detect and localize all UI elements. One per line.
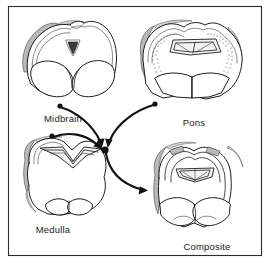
arrow-pons-head: [105, 139, 112, 148]
figure-canvas: Midbrain: [0, 0, 271, 265]
medulla-pyramid-left: [46, 199, 70, 215]
composite-label: Composite: [183, 241, 230, 252]
medulla-label: Medulla: [36, 224, 71, 235]
arrow-hub-to-composite: [106, 154, 140, 190]
medulla-pyramid-right: [68, 199, 92, 215]
medulla-section: Medulla: [24, 136, 106, 235]
midbrain-section: Midbrain: [23, 21, 117, 124]
convergence-hub-dot: [101, 146, 108, 153]
brainstem-composite-figure: Midbrain: [0, 0, 271, 265]
arrow-pons-to-hub: [110, 105, 154, 141]
arrow-composite-head: [139, 186, 148, 194]
pons-label: Pons: [183, 117, 206, 128]
composite-rim-shade-topright: [227, 146, 243, 167]
composite-lobe-left: [160, 198, 197, 226]
pons-section: Pons: [140, 20, 242, 128]
pons-fourth-ventricle: [170, 39, 221, 55]
composite-lobe-right: [193, 198, 230, 226]
composite-section: Composite: [154, 142, 243, 252]
